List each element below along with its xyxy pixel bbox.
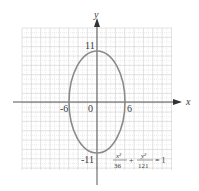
- eq-term2-den: 121: [138, 162, 149, 170]
- tick-y-neg: -11: [81, 154, 94, 165]
- eq-plus: +: [129, 156, 134, 165]
- eq-equals: = 1: [155, 156, 166, 165]
- tick-origin: 0: [88, 103, 93, 114]
- tick-x-pos: 6: [127, 103, 132, 114]
- eq-term2-num: y²: [140, 152, 147, 160]
- ellipse-diagram: x y -6 0 6 11 -11 x² 36 + y² 121 = 1: [0, 0, 199, 191]
- x-axis-label: x: [185, 96, 191, 107]
- eq-term1-num: x²: [115, 152, 122, 160]
- tick-y-pos: 11: [85, 40, 95, 51]
- tick-x-neg: -6: [60, 103, 68, 114]
- x-axis-arrow-icon: [173, 99, 182, 105]
- eq-term1-den: 36: [114, 162, 122, 170]
- y-axis-label: y: [93, 9, 99, 20]
